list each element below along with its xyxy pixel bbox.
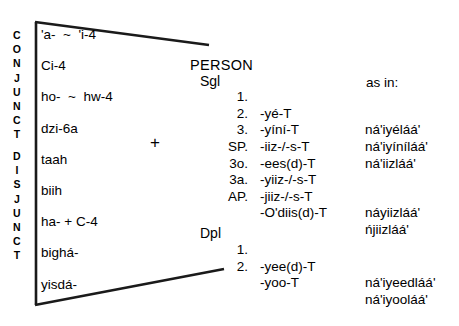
example-cell: ná'iyooláá' bbox=[365, 292, 428, 309]
disjunct-letter: C bbox=[8, 234, 26, 248]
paradigm-row: 2. -yoo-T ná'iyooláá' bbox=[186, 242, 459, 259]
paradigm-header-row: PERSON as in: bbox=[186, 38, 459, 56]
disjunct-letter: N bbox=[8, 220, 26, 234]
conjunct-letter: O bbox=[8, 42, 26, 56]
conjunct-letter: T bbox=[8, 127, 26, 141]
suffix-cell: -yoo-T bbox=[260, 275, 299, 292]
conjunct-letter: C bbox=[8, 28, 26, 42]
conjunct-letter: J bbox=[8, 71, 26, 85]
disjunct-letter: U bbox=[8, 206, 26, 220]
affix-item: dzi-6a bbox=[41, 120, 166, 151]
affix-item: taah bbox=[41, 151, 166, 182]
paradigm-row: AP. -O'diis(d)-T ńjiizláá' bbox=[186, 172, 459, 189]
conjunct-side-label: C O N J U N C T bbox=[8, 28, 26, 142]
suffix-cell: -yee(d)-T bbox=[260, 259, 316, 276]
conjunct-letter: N bbox=[8, 56, 26, 70]
linguistic-paradigm-figure: C O N J U N C T D I S J U N C T 'a- ~ 'i… bbox=[0, 0, 459, 326]
disjunct-letter: T bbox=[8, 248, 26, 262]
disjunct-side-label: D I S J U N C T bbox=[8, 149, 26, 263]
paradigm-row: 3. -iiz-/-s-T ná'iizláá' bbox=[186, 106, 459, 123]
person-cell: 2. bbox=[186, 259, 248, 276]
affix-item: ho- ~ hw-4 bbox=[41, 88, 166, 119]
affix-item: Ci-4 bbox=[41, 57, 166, 88]
affix-item: bighá- bbox=[41, 244, 166, 275]
plus-sign: + bbox=[150, 134, 160, 151]
dual-plural-group-header: Dpl bbox=[186, 209, 459, 226]
person-cell: AP. bbox=[186, 189, 248, 206]
affix-list: 'a- ~ 'i-4 Ci-4 ho- ~ hw-4 dzi-6a taah b… bbox=[41, 26, 166, 307]
singular-group-header: Sgl bbox=[186, 56, 459, 73]
conjunct-letter: U bbox=[8, 85, 26, 99]
paradigm-row: 3o. -yiiz-/-s-T bbox=[186, 139, 459, 156]
disjunct-letter: I bbox=[8, 163, 26, 177]
affix-item: biih bbox=[41, 182, 166, 213]
paradigm-table: PERSON as in: Sgl 1. -yé-T ná'iyéláá' 2.… bbox=[186, 38, 459, 259]
conjunct-letter: N bbox=[8, 99, 26, 113]
paradigm-row: SP. -ees(d)-T bbox=[186, 122, 459, 139]
paradigm-row: 1. -yé-T ná'iyéláá' bbox=[186, 73, 459, 90]
paradigm-row: 2. -yíní-T ná'iyíníláá' bbox=[186, 89, 459, 106]
disjunct-letter: J bbox=[8, 192, 26, 206]
disjunct-letter: D bbox=[8, 149, 26, 163]
disjunct-letter: S bbox=[8, 177, 26, 191]
affix-item: ha- + C-4 bbox=[41, 213, 166, 244]
paradigm-row: 3a. -jiiz-/-s-T náyiizláá' bbox=[186, 156, 459, 173]
affix-item: yisdá- bbox=[41, 276, 166, 307]
paradigm-row: 1. -yee(d)-T ná'iyeedláá' bbox=[186, 225, 459, 242]
affix-item: 'a- ~ 'i-4 bbox=[41, 26, 166, 57]
example-cell: ná'iyeedláá' bbox=[365, 275, 435, 292]
suffix-cell: -jiiz-/-s-T bbox=[260, 189, 312, 206]
conjunct-letter: C bbox=[8, 113, 26, 127]
